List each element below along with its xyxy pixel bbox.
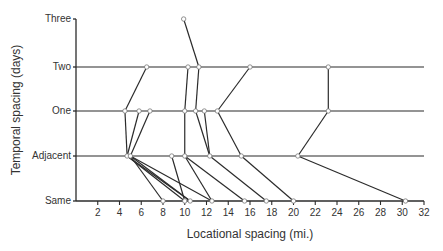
- x-tick-label: 10: [179, 207, 191, 218]
- x-tick-label: 4: [117, 207, 123, 218]
- x-tick-label: 24: [331, 207, 343, 218]
- data-point: [183, 154, 187, 158]
- connector-line: [217, 111, 241, 156]
- connector-line: [125, 111, 127, 156]
- data-point: [123, 109, 127, 113]
- connector-line: [125, 67, 147, 111]
- connector-line: [185, 156, 212, 201]
- x-tick-label: 12: [201, 207, 213, 218]
- data-point: [403, 199, 407, 203]
- connector-line: [217, 67, 250, 111]
- data-point: [242, 199, 246, 203]
- x-tick-label: 14: [223, 207, 235, 218]
- x-tick-label: 16: [244, 207, 256, 218]
- data-point: [188, 199, 192, 203]
- connector-line: [130, 156, 190, 201]
- data-point: [148, 109, 152, 113]
- connector-line: [185, 67, 188, 111]
- data-point: [144, 65, 148, 69]
- data-point: [186, 65, 190, 69]
- data-point: [326, 109, 330, 113]
- x-tick-label: 28: [375, 207, 387, 218]
- y-axis-label: Temporal spacing (days): [9, 45, 23, 176]
- connector-line: [241, 156, 293, 201]
- connector-line: [172, 156, 185, 201]
- temporal-locational-chart: ThreeTwoOneAdjacentSame24681012141618202…: [0, 0, 443, 251]
- connector-line: [210, 156, 267, 201]
- data-point: [326, 65, 330, 69]
- data-point: [202, 109, 206, 113]
- y-category-label-two: Two: [53, 61, 72, 72]
- data-point: [183, 199, 187, 203]
- x-tick-label: 22: [310, 207, 322, 218]
- data-point: [215, 109, 219, 113]
- x-tick-label: 8: [160, 207, 166, 218]
- y-category-label-one: One: [52, 105, 71, 116]
- x-tick-label: 2: [95, 207, 101, 218]
- y-category-label-adjacent: Adjacent: [32, 150, 71, 161]
- data-point: [181, 17, 185, 21]
- connector-line: [298, 156, 406, 201]
- x-tick-label: 30: [397, 207, 409, 218]
- data-point: [128, 154, 132, 158]
- data-point: [208, 154, 212, 158]
- data-point: [239, 154, 243, 158]
- connector-line: [184, 19, 199, 67]
- y-category-label-three: Three: [45, 13, 72, 24]
- connector-line: [130, 156, 212, 201]
- y-category-label-same: Same: [45, 195, 72, 206]
- data-point: [183, 109, 187, 113]
- connector-line: [185, 156, 245, 201]
- connector-line: [298, 111, 328, 156]
- data-point: [137, 109, 141, 113]
- connector-line: [196, 67, 199, 111]
- data-point: [161, 199, 165, 203]
- x-tick-label: 6: [138, 207, 144, 218]
- x-axis-label: Locational spacing (mi.): [187, 227, 314, 241]
- data-point: [264, 199, 268, 203]
- x-tick-label: 26: [353, 207, 365, 218]
- data-point: [193, 109, 197, 113]
- data-point: [296, 154, 300, 158]
- x-tick-label: 18: [266, 207, 278, 218]
- x-tick-label: 32: [418, 207, 430, 218]
- data-point: [291, 199, 295, 203]
- data-point: [210, 199, 214, 203]
- x-tick-label: 20: [288, 207, 300, 218]
- data-point: [197, 65, 201, 69]
- data-point: [248, 65, 252, 69]
- data-point: [170, 154, 174, 158]
